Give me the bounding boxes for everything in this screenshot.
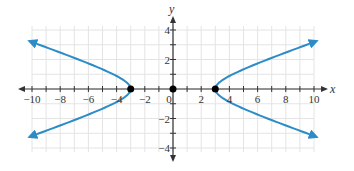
y-axis-label: y [168,2,175,16]
y-tick-label: −4 [158,142,170,154]
x-tick-label: 0 [166,93,172,105]
y-tick-label: 2 [165,54,171,66]
x-tick-label: 10 [309,93,321,105]
x-axis-label: x [329,82,336,96]
x-tick-label: −10 [23,93,41,105]
x-tick-label: 8 [283,93,289,105]
x-tick-label: 2 [198,93,204,105]
labels: −10−8−6−4−20246810−4−224xy [23,2,336,154]
x-tick-label: 4 [227,93,233,105]
x-tick-label: −4 [111,93,123,105]
y-axis-arrow-up-icon [170,16,176,23]
y-tick-label: −2 [158,113,170,125]
x-tick-label: 6 [255,93,261,105]
x-tick-label: −8 [54,93,66,105]
marked-point [127,86,134,93]
x-tick-label: −2 [139,93,151,105]
hyperbola-chart: −10−8−6−4−20246810−4−224xy [0,0,354,171]
x-tick-label: −6 [83,93,95,105]
marked-point [170,86,177,93]
y-axis-arrow-down-icon [170,155,176,162]
y-tick-label: 4 [165,24,171,36]
marked-point [212,86,219,93]
x-axis-arrow-right-icon [321,86,328,92]
x-axis-arrow-left-icon [18,86,25,92]
